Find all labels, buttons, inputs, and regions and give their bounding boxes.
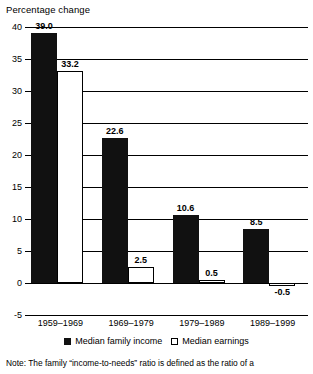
x-tick-label-0: 1959–1969 — [38, 318, 83, 328]
plot-area: 4035302520151050-539.033.222.62.510.60.5… — [25, 27, 308, 315]
y-tick-label: 30 — [0, 86, 22, 96]
outlined-square-icon — [171, 338, 178, 345]
bar-value-label: 33.2 — [50, 59, 90, 69]
bar-value-label: 0.5 — [192, 268, 232, 278]
bar-value-label: 8.5 — [236, 217, 276, 227]
y-tick-label: 10 — [0, 214, 22, 224]
y-tick-label: 35 — [0, 54, 22, 64]
bar-value-label: 39.0 — [24, 21, 64, 31]
legend-label: Median family income — [75, 336, 162, 346]
y-tick-label: -5 — [0, 310, 22, 320]
bar-value-label: 10.6 — [166, 203, 206, 213]
filled-square-icon — [64, 338, 71, 345]
gridline--5 — [25, 315, 308, 316]
gridline-0 — [25, 283, 308, 284]
y-tick-label: 15 — [0, 182, 22, 192]
y-axis-title: Percentage change — [6, 4, 90, 15]
chart-note: Note: The family “income-to-needs” ratio… — [6, 358, 311, 369]
bar-1969–1979-median-earnings — [128, 267, 154, 283]
legend-item-1[interactable]: Median earnings — [171, 336, 249, 346]
chart-figure: Percentage change 4035302520151050-539.0… — [0, 0, 313, 374]
bar-1989–1999-median-earnings — [269, 283, 295, 286]
x-tick-label-3: 1989–1999 — [250, 318, 295, 328]
bar-value-label: 2.5 — [121, 255, 161, 265]
chart-legend: Median family incomeMedian earnings — [0, 336, 313, 346]
bar-1959–1969-median-family-income — [31, 33, 57, 283]
y-tick-label: 5 — [0, 246, 22, 256]
bar-1989–1999-median-family-income — [243, 229, 269, 283]
bar-1979–1989-median-earnings — [199, 280, 225, 283]
bar-value-label: -0.5 — [262, 287, 302, 297]
legend-item-0[interactable]: Median family income — [64, 336, 162, 346]
x-axis-labels: 1959–19691969–19791979–19891989–1999 — [25, 318, 308, 332]
bar-1959–1969-median-earnings — [57, 71, 83, 283]
x-tick-label-2: 1979–1989 — [179, 318, 224, 328]
x-tick-label-1: 1969–1979 — [109, 318, 154, 328]
y-tick-label: 20 — [0, 150, 22, 160]
y-tick-label: 40 — [0, 22, 22, 32]
y-tick-label: 25 — [0, 118, 22, 128]
bar-value-label: 22.6 — [95, 126, 135, 136]
gridline-40 — [25, 27, 308, 28]
legend-label: Median earnings — [182, 336, 249, 346]
y-tick-label: 0 — [0, 278, 22, 288]
